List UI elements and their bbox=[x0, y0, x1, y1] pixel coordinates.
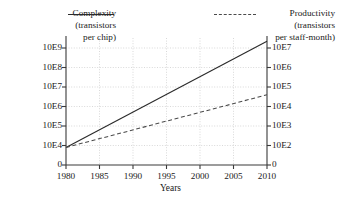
y-axis-left-tick-label: 10E6 bbox=[43, 102, 62, 111]
x-axis-tick-label: 2000 bbox=[183, 172, 217, 181]
y-axis-right-tick-label: 10E2 bbox=[272, 141, 291, 150]
y-axis-right-tick-label: 10E5 bbox=[272, 82, 291, 91]
x-axis-tick-label: 2005 bbox=[217, 172, 251, 181]
y-axis-right-tick-label: 0 bbox=[272, 160, 277, 169]
left-axis-ticks bbox=[62, 48, 66, 165]
y-axis-right-tick-label: 10E6 bbox=[272, 63, 291, 72]
y-axis-left-tick-label: 10E4 bbox=[43, 141, 62, 150]
chart-container: Complexity (transistors per chip) Produc… bbox=[0, 0, 341, 211]
y-axis-right-tick-label: 10E7 bbox=[272, 43, 291, 52]
y-axis-left-tick-label: 0 bbox=[57, 160, 62, 169]
x-axis-tick-label: 1985 bbox=[83, 172, 117, 181]
x-axis-tick-label: 1980 bbox=[49, 172, 83, 181]
x-axis-tick-label: 2010 bbox=[250, 172, 284, 181]
y-axis-left-tick-label: 10E8 bbox=[43, 63, 62, 72]
right-axis-ticks bbox=[267, 48, 271, 165]
y-axis-left-tick-label: 10E7 bbox=[43, 82, 62, 91]
x-axis-tick-label: 1995 bbox=[150, 172, 184, 181]
y-axis-right-tick-label: 10E4 bbox=[272, 102, 291, 111]
x-axis-title: Years bbox=[0, 183, 341, 193]
bottom-axis-ticks bbox=[66, 165, 267, 169]
y-axis-left-tick-label: 10E9 bbox=[43, 43, 62, 52]
y-axis-right-tick-label: 10E3 bbox=[272, 121, 291, 130]
x-axis-tick-label: 1990 bbox=[116, 172, 150, 181]
y-axis-left-tick-label: 10E5 bbox=[43, 121, 62, 130]
vertical-gridlines bbox=[100, 38, 234, 165]
